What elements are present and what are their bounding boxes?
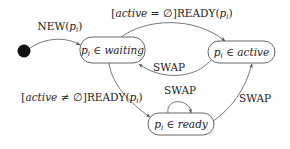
state-ready-set: ready	[178, 118, 209, 130]
initial-state-dot	[18, 45, 31, 58]
edge-initial-to-waiting	[30, 39, 80, 48]
label-ready-active-nonempty: [active ≠ ∅]READY(pi)	[21, 91, 142, 105]
state-ready: pi ∈ ready	[148, 113, 214, 135]
label-swap-ready-to-active: SWAP	[239, 92, 271, 104]
label-swap-self-loop: SWAP	[164, 84, 196, 96]
state-active: pi ∈ active	[208, 41, 275, 63]
svg-text:pi ∈ waiting: pi ∈ waiting	[81, 44, 144, 58]
state-active-set: active	[237, 46, 269, 58]
svg-text:pi ∈ ready: pi ∈ ready	[154, 118, 209, 132]
label-ready-active-empty: [active = ∅]READY(pi)	[111, 7, 232, 21]
state-waiting: pi ∈ waiting	[80, 37, 145, 63]
edge-ready-self-loop	[168, 102, 191, 113]
state-diagram: pi ∈ waiting pi ∈ active pi ∈ ready NEW(…	[0, 0, 290, 149]
label-swap-active-to-waiting: SWAP	[153, 61, 185, 73]
edge-waiting-to-ready	[109, 63, 150, 117]
svg-text:pi ∈ active: pi ∈ active	[214, 46, 269, 60]
label-new: NEW(pi)	[38, 20, 83, 34]
state-waiting-set: waiting	[104, 44, 144, 56]
